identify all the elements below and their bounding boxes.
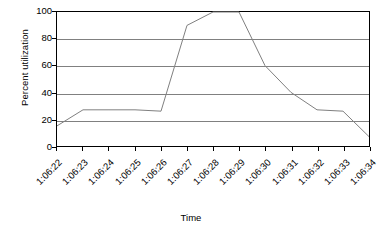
- x-axis-tick-mark: [344, 147, 345, 151]
- y-axis-tick-mark: [52, 38, 56, 39]
- y-axis-tick-mark: [52, 120, 56, 121]
- x-axis-tick-mark: [108, 147, 109, 151]
- y-axis-tick-mark: [52, 65, 56, 66]
- series-line: [57, 12, 369, 146]
- x-axis-tick-mark: [56, 147, 57, 151]
- x-axis-tick-mark: [318, 147, 319, 151]
- x-axis-tick-mark: [135, 147, 136, 151]
- x-axis-title: Time: [0, 212, 382, 223]
- gridline: [57, 39, 369, 40]
- x-axis-tick-mark: [265, 147, 266, 151]
- y-axis-tick-mark: [52, 93, 56, 94]
- x-axis-tick-mark: [82, 147, 83, 151]
- x-axis-tick-mark: [213, 147, 214, 151]
- y-axis-tick-label: 0: [26, 142, 52, 152]
- x-axis-tick-mark: [370, 147, 371, 151]
- y-axis-tick-label: 100: [26, 6, 52, 16]
- y-axis-tick-label: 20: [26, 115, 52, 125]
- y-axis-tick-label: 40: [26, 88, 52, 98]
- y-axis-tick-label: 80: [26, 33, 52, 43]
- y-axis-tick-labels: 020406080100: [24, 0, 52, 230]
- x-axis-tick-mark: [239, 147, 240, 151]
- gridline: [57, 121, 369, 122]
- gridline: [57, 94, 369, 95]
- y-axis-tick-mark: [52, 11, 56, 12]
- x-axis-tick-mark: [292, 147, 293, 151]
- gridline: [57, 66, 369, 67]
- x-axis-tick-mark: [161, 147, 162, 151]
- line-chart: Percent utilization 020406080100 Time 1:…: [0, 0, 382, 230]
- plot-area: [56, 11, 370, 147]
- y-axis-tick-label: 60: [26, 60, 52, 70]
- x-axis-tick-mark: [187, 147, 188, 151]
